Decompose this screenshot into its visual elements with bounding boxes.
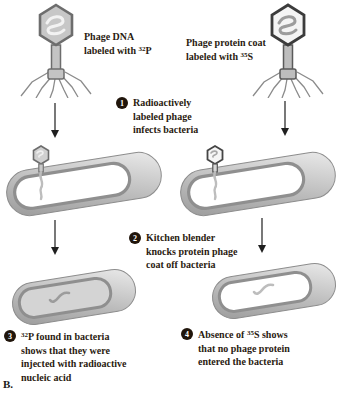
step-text-line: entered the bacteria [198, 355, 290, 369]
phage-baseplate [48, 69, 64, 79]
phage-dna-icon [18, 2, 94, 98]
bacterium-blended-dna-icon [6, 258, 146, 336]
arrow-down-icon [49, 220, 61, 256]
step-text-line: nucleic acid [21, 371, 127, 385]
step-text-line: injected with radioactive [21, 357, 127, 371]
step-text-line: Radioactively [133, 96, 198, 110]
step-2-badge: 2 [129, 232, 141, 244]
phage-baseplate [280, 69, 296, 79]
attached-phage-tail [39, 164, 44, 172]
figure-label: B. [3, 378, 13, 390]
isotope-symbol: P [145, 45, 151, 56]
phage-dna-caption: Phage DNA labeled with 32P [84, 30, 152, 57]
phage-tail [52, 45, 61, 72]
step-1-badge: 1 [116, 97, 128, 109]
step-3-badge: 3 [4, 330, 16, 342]
isotope-superscript: 35 [247, 329, 254, 337]
hershey-chase-diagram: Phage DNA labeled with 32P Phage protein… [0, 0, 345, 402]
phage-protein-caption: Phage protein coat labeled with 35S [186, 36, 266, 63]
step-text-line: Kitchen blender [146, 231, 238, 245]
caption-line: labeled with 32P [84, 43, 152, 57]
step-text-line: that no phage protein [198, 342, 290, 356]
caption-line: Phage DNA [84, 30, 152, 43]
isotope-superscript: 32 [21, 331, 28, 339]
bacterium-infected-dna-icon [0, 120, 170, 224]
phage-tail [284, 45, 293, 72]
step-4-annotation: 4 Absence of 35S shows that no phage pro… [181, 327, 290, 369]
step-3-annotation: 3 32P found in bacteria shows that they … [4, 329, 127, 384]
step-text-line: 32P found in bacteria [21, 329, 127, 344]
bacterium-membrane [186, 161, 306, 211]
attached-phage-tail [213, 164, 218, 172]
caption-line: Phage protein coat [186, 36, 266, 49]
step-text-line: shows that they were [21, 344, 127, 358]
bacterium-blended-protein-icon [206, 252, 345, 330]
arrow-down-icon [256, 218, 268, 254]
step-text-line: Absence of 35S shows [198, 327, 290, 342]
isotope-symbol: S [247, 51, 253, 62]
caption-line: labeled with 35S [186, 49, 266, 63]
step-4-badge: 4 [181, 328, 193, 340]
bacterium-membrane [12, 161, 132, 211]
bacterium-infected-protein-icon [174, 120, 344, 224]
